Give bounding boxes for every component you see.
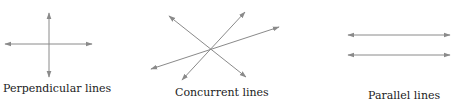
parallel-lines-group [348,35,450,55]
parallel-lines-label: Parallel lines [368,89,440,102]
perpendicular-lines-label: Perpendicular lines [3,82,111,95]
perpendicular-lines-group [5,13,92,77]
concurrent-line-2 [182,12,245,80]
concurrent-line-1 [169,16,246,77]
concurrent-lines-label: Concurrent lines [175,86,269,99]
concurrent-lines-group [151,12,279,80]
concurrent-line-3 [151,27,279,69]
lines-diagram: Perpendicular lines Concurrent lines Par… [0,0,453,104]
